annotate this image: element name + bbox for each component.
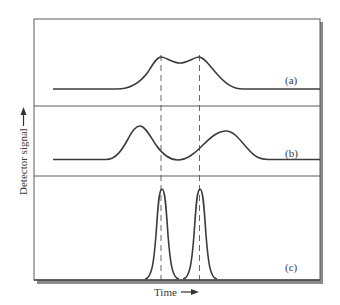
plot-frame bbox=[34, 19, 320, 280]
panel-label-a: (a) bbox=[285, 74, 298, 87]
panel-label-c: (c) bbox=[285, 261, 298, 274]
x-axis-arrow-icon bbox=[181, 289, 199, 295]
y-axis-label: Detector signal bbox=[17, 128, 29, 195]
y-axis-arrow-icon bbox=[21, 107, 27, 126]
x-axis-label: Time bbox=[154, 286, 177, 298]
panel-label-b: (b) bbox=[285, 147, 298, 160]
chromatogram-figure: (a) (b) (c) Detector signal Time bbox=[0, 0, 340, 305]
